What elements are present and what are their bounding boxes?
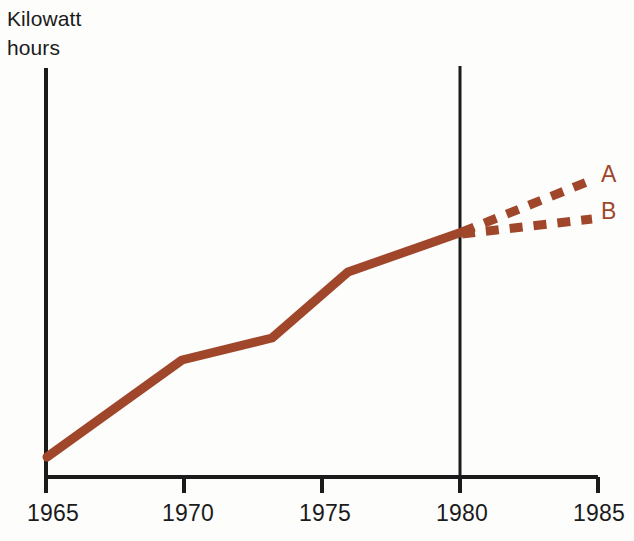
series-a-projection-line [462,180,592,232]
chart-canvas [0,0,634,541]
x-tick-label-1985: 1985 [573,500,625,527]
x-tick-label-1970: 1970 [162,500,214,527]
x-axis-ticks [46,477,598,493]
x-tick-label-1975: 1975 [299,500,351,527]
series-historical-line [47,232,462,457]
series-b-projection-line [462,219,592,234]
y-axis-title: Kilowatt hours [7,4,81,62]
series-label-b: B [601,198,617,225]
x-tick-label-1965: 1965 [27,500,79,527]
series-label-a: A [601,161,617,188]
x-tick-label-1980: 1980 [436,500,488,527]
kilowatt-hours-line-chart: Kilowatt hours 1965 1970 1975 1980 1985 … [0,0,634,541]
